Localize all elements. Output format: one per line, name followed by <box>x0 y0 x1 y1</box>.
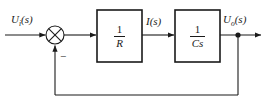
block-1-over-R-expression: 1 R <box>97 10 142 62</box>
feedback-minus-sign: − <box>60 51 66 62</box>
output-signal-arg: (s) <box>235 13 247 25</box>
output-signal-base: U <box>223 13 231 25</box>
fraction-1-over-R: 1 R <box>114 24 125 49</box>
fraction-1-over-Cs: 1 Cs <box>190 24 206 49</box>
fraction-numerator: 1 <box>190 24 206 36</box>
current-signal-label: I(s) <box>146 16 161 27</box>
input-signal-label: Ui(s) <box>11 14 33 28</box>
block-1-over-Cs-expression: 1 Cs <box>175 10 220 62</box>
current-signal-arg: (s) <box>150 15 162 27</box>
fraction-denominator: Cs <box>190 37 206 49</box>
block-diagram-canvas: Ui(s) I(s) Uo(s) − 1 R 1 Cs <box>0 0 267 108</box>
fraction-numerator: 1 <box>114 24 125 36</box>
output-signal-label: Uo(s) <box>223 14 246 28</box>
input-signal-base: U <box>11 13 19 25</box>
input-signal-arg: (s) <box>21 13 33 25</box>
fraction-denominator: R <box>114 37 125 49</box>
